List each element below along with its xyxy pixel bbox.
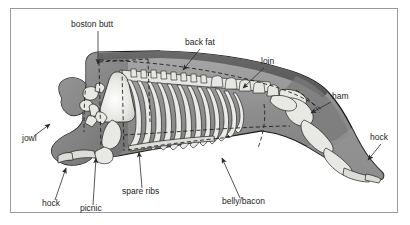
label-ham: ham <box>332 91 349 101</box>
label-spare-ribs: spare ribs <box>122 186 159 196</box>
leader-spare-ribs <box>139 152 142 188</box>
pig-anatomy-illustration: boston butt back fat loin ham hock jowl … <box>0 0 410 225</box>
label-loin: loin <box>261 56 275 66</box>
label-back-fat: back fat <box>185 37 215 47</box>
label-picnic: picnic <box>80 203 102 213</box>
label-jowl: jowl <box>21 133 37 143</box>
diagram-stage: boston butt back fat loin ham hock jowl … <box>0 0 410 225</box>
label-hock-rear: hock <box>370 132 389 142</box>
leader-belly-bacon <box>222 158 240 198</box>
leader-hock-rear <box>368 144 381 160</box>
leader-picnic <box>93 158 96 205</box>
label-boston-butt: boston butt <box>71 19 114 29</box>
leader-hock-front <box>55 168 66 200</box>
label-hock-front: hock <box>42 198 61 208</box>
label-belly-bacon: belly/bacon <box>222 196 265 206</box>
